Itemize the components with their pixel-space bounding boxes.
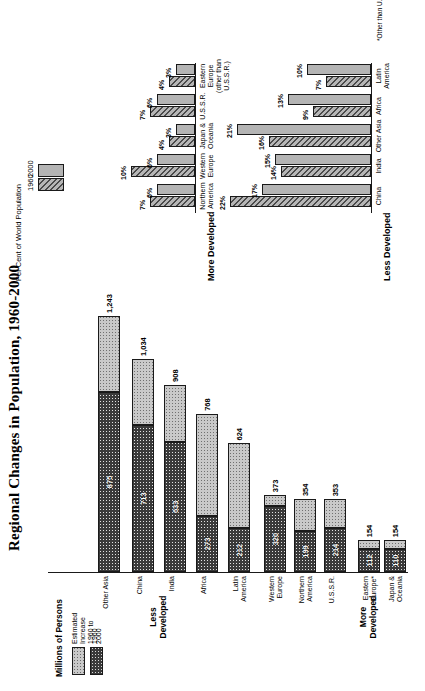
percent-legend-swatch-1960 <box>38 178 64 191</box>
percent-bar-2000 <box>157 184 195 195</box>
nineteen-sixty-swatch <box>90 647 103 675</box>
bar-segment-increase <box>228 443 250 528</box>
less-developed-line-2: Developed <box>158 596 168 639</box>
percent-bar-1960 <box>169 76 195 87</box>
bar-segment-1960: 110 <box>384 549 406 572</box>
percent-chart-title: Per Cent of World Population <box>14 184 23 281</box>
bar-segment-1960: 875 <box>98 392 120 572</box>
percent-bar-value: 16% <box>258 136 265 150</box>
stacked-bar-row: 214353 <box>324 499 346 572</box>
legend-label-1960: 1960 <box>91 628 99 644</box>
bar-segment-1960: 273 <box>196 516 218 572</box>
percent-bar-2000 <box>176 64 195 75</box>
percent-bar-value: 6% <box>146 158 153 168</box>
estimated-increase-swatch <box>72 647 85 675</box>
bar-total-value: 1,034 <box>139 337 148 359</box>
bar-category-label: Other Asia <box>102 576 110 633</box>
percent-bar-value: 21% <box>226 124 233 138</box>
percent-bar-1960 <box>313 106 371 117</box>
percent-bar-value: 4% <box>158 140 165 150</box>
percent-legend-label-2000: 2000 <box>26 160 35 177</box>
bar-segment-value: 212 <box>235 529 244 571</box>
bar-segment-1960: 713 <box>132 425 154 572</box>
bar-segment-value: 199 <box>301 532 310 571</box>
bar-segment-1960: 112 <box>358 549 380 572</box>
bar-segment-value: 110 <box>391 550 400 571</box>
category-line-1: Eastern <box>362 576 369 600</box>
bar-category-label: China <box>136 576 144 633</box>
bar-category-label: LatinAmerica <box>232 576 248 633</box>
percent-category-line-2: (other than U.S.S.R.) <box>215 59 230 93</box>
percent-bar-2000 <box>237 124 371 135</box>
category-line-1: Northern <box>298 576 305 603</box>
less-developed-line-1: Less <box>148 607 158 626</box>
percent-bar-1960 <box>169 136 195 147</box>
percent-bar-value: 15% <box>264 154 271 168</box>
percent-legend-swatch-2000 <box>38 164 64 177</box>
percent-bar-2000 <box>307 64 371 75</box>
stacked-bar-row: 110154 <box>384 540 406 572</box>
bar-segment-value: 320 <box>271 507 280 571</box>
bar-segment-increase <box>264 495 286 506</box>
bar-segment-1960: 633 <box>164 442 186 572</box>
stacked-bar-row: 633908 <box>164 385 186 572</box>
stacked-bar-row: 8751,243 <box>98 316 120 572</box>
category-line-1: China <box>136 576 143 594</box>
bar-total-value: 353 <box>331 484 340 500</box>
bar-total-value: 373 <box>271 480 280 496</box>
percent-bar-value: 7% <box>139 110 146 120</box>
percent-category-line-1: India <box>375 158 382 173</box>
bar-segment-increase <box>358 540 380 549</box>
bar-segment-value: 214 <box>331 529 340 571</box>
bar-total-value: 768 <box>203 398 212 414</box>
percent-bar-value: 7% <box>315 80 322 90</box>
percent-bar-value: 3% <box>165 68 172 78</box>
percent-bar-1960 <box>131 166 195 177</box>
bar-segment-increase <box>132 359 154 425</box>
percent-category-line-2: Oceania <box>207 123 214 149</box>
population-millions-chart: Millions of Persons Estimated Increase 1… <box>28 291 420 691</box>
left-group-caption-less-developed: Less Developed <box>148 587 168 647</box>
bar-total-value: 624 <box>235 428 244 444</box>
bar-category-label: Africa <box>200 576 208 633</box>
category-line-1: Other Asia <box>102 576 109 609</box>
bar-segment-increase <box>98 316 120 392</box>
bar-segment-value: 713 <box>139 426 148 571</box>
percent-bar-value: 6% <box>146 188 153 198</box>
bar-segment-1960: 320 <box>264 506 286 572</box>
stacked-bar-row: 273768 <box>196 414 218 572</box>
percent-bar-2000 <box>288 94 371 105</box>
percent-category-line-2: America <box>383 63 390 89</box>
category-line-1: India <box>168 576 175 591</box>
percent-bar-value: 17% <box>251 184 258 198</box>
bar-segment-1960: 214 <box>324 528 346 572</box>
bar-segment-increase <box>294 499 316 531</box>
percent-bar-value: 3% <box>165 128 172 138</box>
category-line-2: America <box>306 576 313 602</box>
percent-bar-value: 9% <box>302 110 309 120</box>
percent-bar-value: 4% <box>158 80 165 90</box>
percent-axis-more-developed <box>195 63 196 213</box>
percent-bar-value: 14% <box>270 166 277 180</box>
percent-bar-value: 13% <box>277 94 284 108</box>
category-line-2: America <box>240 576 247 602</box>
category-line-1: U.S.S.R. <box>328 576 335 603</box>
percent-bar-value: 10% <box>296 64 303 78</box>
percent-bar-1960 <box>281 166 371 177</box>
stacked-bar-row: 320373 <box>264 495 286 572</box>
bar-segment-1960: 199 <box>294 531 316 572</box>
percent-bar-value: 6% <box>146 98 153 108</box>
percent-bar-value: 7% <box>139 200 146 210</box>
bar-segment-value: 112 <box>365 550 374 571</box>
bar-category-label: Japan &Oceania <box>388 576 404 633</box>
percent-bar-1960 <box>150 196 195 207</box>
bar-category-label: WesternEurope <box>268 576 284 633</box>
bar-segment-increase <box>196 414 218 516</box>
category-line-1: Africa <box>200 576 207 594</box>
stacked-bar-row: 212624 <box>228 443 250 572</box>
percent-world-population-chart: Per Cent of World Population 1960 2000 M… <box>10 0 420 287</box>
category-line-2: Europe <box>276 576 283 599</box>
legend-line-1: Estimated Increase <box>71 613 86 644</box>
page-title: Regional Changes in Population, 1960-200… <box>6 265 23 551</box>
bar-segment-increase <box>324 499 346 528</box>
